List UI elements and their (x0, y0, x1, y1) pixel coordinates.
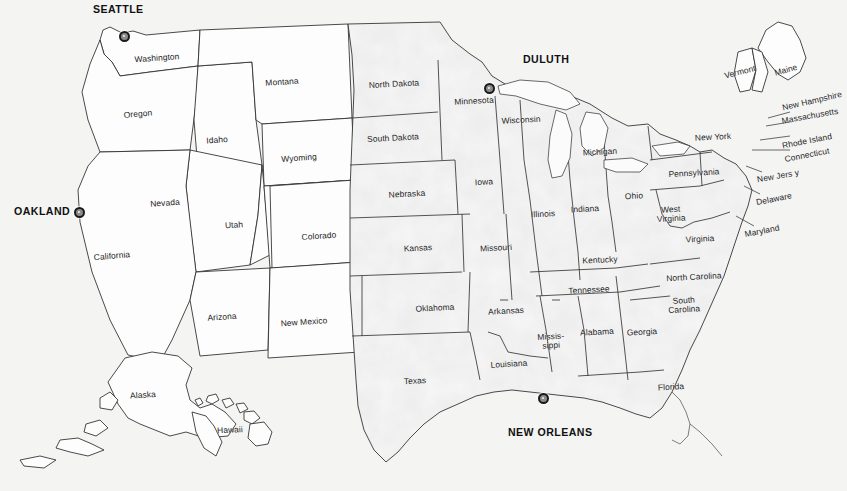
city-label-seattle: SEATTLE (93, 3, 144, 15)
map-svg (0, 0, 847, 491)
city-marker-oakland[interactable] (74, 207, 85, 218)
city-label-duluth: DULUTH (523, 53, 569, 65)
city-marker-new-orleans[interactable] (538, 393, 549, 404)
city-marker-duluth[interactable] (484, 83, 495, 94)
city-label-new-orleans: NEW ORLEANS (508, 426, 592, 438)
us-map-figure: United States with major ports highlight… (0, 0, 847, 491)
city-label-oakland: OAKLAND (14, 205, 70, 217)
city-marker-seattle[interactable] (119, 31, 130, 42)
